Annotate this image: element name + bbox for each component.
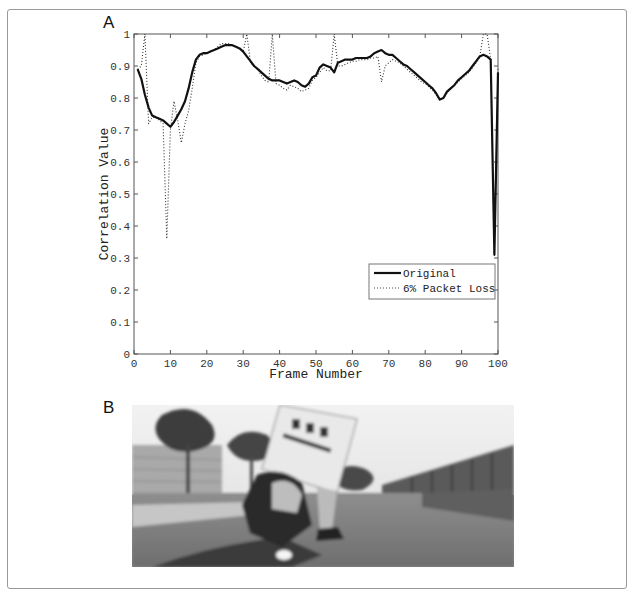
y-tick-label: 0.2 <box>110 285 130 297</box>
y-tick-label: 0.9 <box>110 61 130 73</box>
x-tick-label: 0 <box>131 358 138 370</box>
y-tick-label: 1 <box>123 29 130 41</box>
x-axis-label: Frame Number <box>269 367 363 382</box>
y-tick-label: 0.1 <box>110 317 130 329</box>
y-tick-label: 0.5 <box>110 189 130 201</box>
x-tick-label: 80 <box>419 358 432 370</box>
panel-label-b: B <box>103 398 114 418</box>
series-line-packet-loss <box>138 34 498 255</box>
wheel-light <box>276 550 292 560</box>
y-tick-label: 0.6 <box>110 157 130 169</box>
y-tick-label: 0.4 <box>110 221 130 233</box>
x-tick-label: 70 <box>382 358 395 370</box>
y-tick-label: 0.8 <box>110 93 130 105</box>
y-axis-label: Correlation Value <box>97 128 112 261</box>
x-tick-label: 30 <box>237 358 250 370</box>
y-tick-label: 0 <box>123 349 130 361</box>
correlation-chart: 010203040506070809010000.10.20.30.40.50.… <box>0 0 634 400</box>
x-tick-label: 10 <box>164 358 177 370</box>
series-line-original <box>138 45 498 255</box>
x-tick-label: 100 <box>488 358 508 370</box>
chart-lines <box>138 34 498 255</box>
video-frame-photo <box>132 405 514 567</box>
chart-legend: Original 6% Packet Loss <box>369 264 495 299</box>
x-tick-label: 20 <box>200 358 213 370</box>
y-tick-label: 0.7 <box>110 125 130 137</box>
photo-illustration <box>132 405 514 567</box>
x-tick-label: 90 <box>455 358 468 370</box>
chart-ticks: 010203040506070809010000.10.20.30.40.50.… <box>110 29 508 370</box>
y-tick-label: 0.3 <box>110 253 130 265</box>
legend-label-packet-loss: 6% Packet Loss <box>403 283 495 295</box>
legend-label-original: Original <box>403 268 456 280</box>
chart-axes <box>134 34 498 354</box>
plot-area-border <box>134 34 498 354</box>
